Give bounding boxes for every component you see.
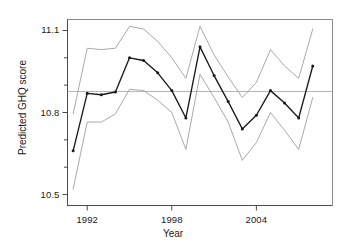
data-point-marker xyxy=(297,116,300,119)
data-point-marker xyxy=(170,89,173,92)
data-point-marker xyxy=(114,90,117,93)
data-point-marker xyxy=(227,100,230,103)
x-tick-label: 1998 xyxy=(147,214,197,225)
data-point-marker xyxy=(156,71,159,74)
y-tick-label: 10.5 xyxy=(41,189,60,200)
data-point-marker xyxy=(72,149,75,152)
series-line-estimate xyxy=(73,47,313,151)
chart-figure: 10.510.811.1 199219982004 Predicted GHQ … xyxy=(0,0,346,248)
x-tick-label: 2004 xyxy=(231,214,281,225)
series-line-ci-upper xyxy=(73,26,313,114)
data-point-marker xyxy=(199,45,202,48)
data-point-marker xyxy=(283,101,286,104)
y-tick-label: 11.1 xyxy=(41,24,59,35)
data-point-markers xyxy=(72,45,315,152)
data-point-marker xyxy=(213,74,216,77)
data-point-marker xyxy=(184,116,187,119)
y-tick-label: 10.8 xyxy=(41,107,60,118)
x-tick-label: 1992 xyxy=(62,214,112,225)
y-axis-title: Predicted GHQ score xyxy=(17,38,28,178)
data-point-marker xyxy=(311,65,314,68)
data-point-marker xyxy=(255,114,258,117)
x-axis-title: Year xyxy=(0,228,346,239)
data-point-marker xyxy=(100,93,103,96)
data-point-marker xyxy=(142,59,145,62)
data-point-marker xyxy=(241,127,244,130)
y-axis-ticks xyxy=(63,30,68,194)
data-series-group xyxy=(73,26,313,189)
data-point-marker xyxy=(86,92,89,95)
plot-canvas xyxy=(0,0,346,248)
data-point-marker xyxy=(269,89,272,92)
x-axis-ticks xyxy=(87,206,256,211)
data-point-marker xyxy=(128,56,131,59)
